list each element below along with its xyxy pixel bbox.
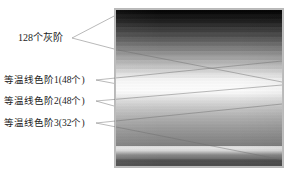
leader-gray-levels-long bbox=[118, 50, 282, 82]
leader-scale3-long bbox=[96, 104, 282, 123]
leader-lines-over bbox=[0, 0, 288, 173]
leader-scale3-low bbox=[96, 123, 283, 160]
leader-scale2-long bbox=[96, 85, 282, 101]
figure-canvas: 128个灰阶 等温线色阶1(48个) 等温线色阶2(48个) 等温线色阶3(32… bbox=[0, 0, 288, 173]
